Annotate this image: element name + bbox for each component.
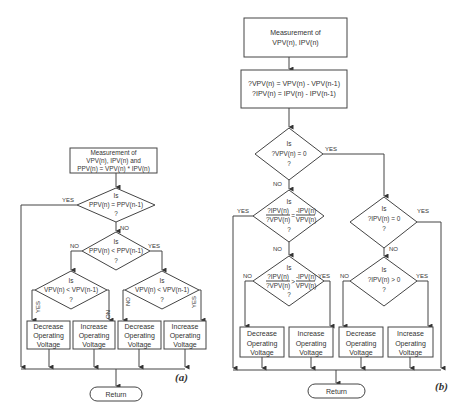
measurement-line-1: Measurement of <box>270 29 321 36</box>
fraction-numerator: ?IPV(n) <box>267 207 289 215</box>
action-text: Voltage <box>299 349 322 357</box>
action-text: Decrease <box>346 330 376 337</box>
yes-label: YES <box>62 197 74 203</box>
action-decrease-voltage: Decrease Operating Voltage <box>27 321 70 349</box>
caption-a: (a) <box>175 371 188 384</box>
measurement-line-3: PPV(n) = VPV(n) * IPV(n) <box>77 165 150 173</box>
measurement-box-a: Measurement of VPV(n), IPV(n) and PPV(n)… <box>70 148 157 173</box>
no-label: NO <box>340 273 349 279</box>
decision-text: Is <box>287 198 292 205</box>
action-text: Voltage <box>82 341 105 349</box>
decision-condition: ?IPV(n) > 0 <box>368 276 401 284</box>
fraction-denominator: ?VPV(n) <box>266 216 290 224</box>
decision-text: Is <box>287 264 292 271</box>
decision-incremental-conductance-greater: Is ?IPV(n) ?VPV(n) > -IPV(n) VPV(n) ? <box>253 256 324 306</box>
action-increase-voltage: Increase Operating Voltage <box>73 321 115 349</box>
decision-condition: ?VPV(n) = 0 <box>272 150 307 158</box>
decision-delta-voltage-zero: Is ?VPV(n) = 0 ? <box>255 128 323 180</box>
action-text: Operating <box>79 332 110 340</box>
no-label: NO <box>273 246 282 252</box>
decision-text: Is <box>69 277 74 284</box>
action-text: Increase <box>298 330 325 337</box>
yes-label: YES <box>191 296 197 308</box>
action-increase-voltage: Increase Operating Voltage <box>289 327 333 357</box>
no-path <box>245 281 253 326</box>
decision-condition: VPV(n) < VPV(n-1) <box>135 286 189 294</box>
decision-condition: PPV(n) < PPV(n-1) <box>89 247 143 255</box>
action-text: Operating <box>346 340 377 348</box>
no-path <box>71 251 82 270</box>
decision-question: ? <box>69 296 73 303</box>
flowchart-b: Measurement of VPV(n), IPV(n) ?VPV(n) = … <box>233 18 448 398</box>
fraction-denominator: VPV(n) <box>296 216 317 224</box>
action-text: Voltage <box>128 341 151 349</box>
action-text: Operating <box>395 340 426 348</box>
fraction-numerator: ?IPV(n) <box>267 273 289 281</box>
action-decrease-voltage: Decrease Operating Voltage <box>240 327 284 357</box>
no-label: NO <box>273 181 282 187</box>
fraction-numerator: -IPV(n) <box>296 207 316 215</box>
delta-calculation-box: ?VPV(n) = VPV(n) - VPV(n-1) ?IPV(n) = IP… <box>241 70 347 108</box>
decision-voltage-less-left: Is VPV(n) < VPV(n-1) ? <box>35 271 107 309</box>
yes-path <box>199 290 201 320</box>
decision-condition: ?IPV(n) = 0 <box>368 215 401 223</box>
decision-delta-current-positive: Is ?IPV(n) > 0 ? <box>350 257 417 306</box>
yes-label: YES <box>416 273 428 279</box>
decision-question: ? <box>160 296 164 303</box>
action-text: Voltage <box>399 349 422 357</box>
return-terminal-b: Return <box>308 384 365 398</box>
yes-label: YES <box>325 146 337 152</box>
flowchart-canvas: Measurement of VPV(n), IPV(n) and PPV(n)… <box>0 0 465 420</box>
action-text: Decrease <box>34 323 64 330</box>
decision-text: Is <box>160 277 165 284</box>
caption-b: (b) <box>435 380 448 393</box>
decision-text: Is <box>114 192 119 199</box>
decision-question: ? <box>382 225 386 232</box>
operator: = <box>291 212 295 219</box>
measurement-box-b: Measurement of VPV(n), IPV(n) <box>244 18 347 57</box>
no-label: NO <box>389 246 398 252</box>
action-text: Operating <box>124 332 155 340</box>
decision-question: ? <box>287 160 291 167</box>
no-label: NO <box>243 273 252 279</box>
action-text: Decrease <box>125 323 155 330</box>
decision-question: ? <box>287 226 291 233</box>
return-terminal-a: Return <box>90 387 142 401</box>
decision-text: Is <box>114 238 119 245</box>
action-text: Voltage <box>250 349 273 357</box>
measurement-line-2: VPV(n), IPV(n) and <box>86 157 141 165</box>
no-label: NO <box>105 310 111 319</box>
action-text: Operating <box>296 340 327 348</box>
no-label: NO <box>125 297 131 306</box>
flowchart-a: Measurement of VPV(n), IPV(n) and PPV(n)… <box>21 148 206 401</box>
action-text: Decrease <box>247 330 277 337</box>
no-path <box>343 281 350 326</box>
action-text: Operating <box>33 332 64 340</box>
decision-text: Is <box>382 266 387 273</box>
yes-path <box>417 281 428 326</box>
return-label: Return <box>326 388 347 395</box>
yes-path <box>324 281 330 326</box>
action-text: Voltage <box>349 349 372 357</box>
decision-delta-current-zero: Is ?IPV(n) = 0 ? <box>350 197 417 248</box>
yes-label: YES <box>417 208 429 214</box>
yes-label: YES <box>148 243 160 249</box>
decision-condition: PPV(n) = PPV(n-1) <box>89 201 143 209</box>
decision-question: ? <box>382 286 386 293</box>
decision-power-less: Is PPV(n) < PPV(n-1) ? <box>82 232 150 270</box>
action-decrease-voltage: Decrease Operating Voltage <box>118 321 161 349</box>
yes-label: YES <box>237 208 249 214</box>
action-increase-voltage: Increase Operating Voltage <box>164 321 206 349</box>
fraction-denominator: ?VPV(n) <box>266 282 290 290</box>
delta-current-formula: ?IPV(n) = IPV(n) - IPV(n-1) <box>252 90 336 98</box>
yes-label: YES <box>318 273 330 279</box>
fraction-numerator: -IPV(n) <box>296 273 316 281</box>
decision-question: ? <box>114 257 118 264</box>
yes-label: YES <box>35 301 41 313</box>
fraction-denominator: VPV(n) <box>296 282 317 290</box>
measurement-line-1: Measurement of <box>90 149 136 156</box>
action-text: Increase <box>81 323 108 330</box>
decision-incremental-conductance-equal: Is ?IPV(n) ?VPV(n) = -IPV(n) VPV(n) ? <box>253 190 324 242</box>
action-text: Increase <box>397 330 424 337</box>
measurement-line-2: VPV(n), IPV(n) <box>272 39 318 47</box>
